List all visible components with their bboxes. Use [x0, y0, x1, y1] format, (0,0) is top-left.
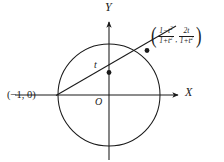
coordinate-pair: 1−t2 1+t2 , 2t 1+t2 — [158, 27, 195, 44]
open-paren: ( — [151, 27, 157, 46]
circle-point-coordinate-label: ( 1−t2 1+t2 , 2t 1+t2 ) — [150, 24, 202, 48]
slope-parameter-label: t — [94, 60, 97, 70]
y-numerator: 2t — [182, 27, 190, 35]
y-axis-label: Y — [105, 1, 112, 13]
origin-label: O — [95, 97, 102, 107]
left-point-label: (−1, 0) — [7, 90, 36, 101]
point-on-circle-marker — [145, 48, 150, 53]
x-axis-label: X — [185, 86, 192, 98]
geometry-figure: Y X O t (−1, 0) ( 1−t2 1+t2 , 2t 1+t2 ) — [0, 0, 224, 162]
y-denominator-exponent: 2 — [191, 34, 194, 40]
close-paren: ) — [196, 27, 202, 46]
x-numerator-exponent: 2 — [170, 25, 173, 31]
x-denominator-exponent: 2 — [170, 34, 173, 40]
coordinate-comma: , — [175, 36, 177, 45]
point-t-marker — [107, 70, 112, 75]
y-coordinate-fraction: 2t 1+t2 — [178, 27, 194, 44]
x-denominator: 1+t2 — [158, 36, 173, 45]
x-coordinate-fraction: 1−t2 1+t2 — [158, 27, 174, 44]
y-denominator: 1+t2 — [179, 36, 194, 45]
